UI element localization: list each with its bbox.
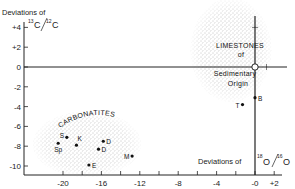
y-isotope-bottom: 12 <box>46 18 52 24</box>
limestones-label-line: Origin <box>228 80 248 88</box>
y-tick-label: -6 <box>14 122 22 131</box>
data-point <box>253 96 256 99</box>
x-tick-label: -20 <box>57 179 69 188</box>
reference-open-circle <box>252 64 258 70</box>
data-point-label: T <box>236 102 240 109</box>
data-point-label: D <box>102 146 107 153</box>
isotope-scatter-chart: LIMESTONESofSedimentaryOriginCARBONATITE… <box>0 0 295 189</box>
limestones-label-line: of <box>238 51 244 58</box>
carbonatites-region-edge <box>33 112 141 177</box>
y-axis-title-prefix: Deviations of <box>2 8 46 17</box>
data-point-label: Sp <box>54 146 62 154</box>
data-point <box>65 136 68 139</box>
data-point <box>131 155 134 158</box>
x-tick-label: -0 <box>251 179 259 188</box>
x-tick-label: -12 <box>134 179 146 188</box>
x-isotope-top: 18 <box>257 153 263 159</box>
y-axis-title-ratio: 13 C 12 C <box>28 18 59 31</box>
data-point-label: M <box>124 153 129 160</box>
y-tick-label: -8 <box>14 142 22 151</box>
x-element-bottom: O <box>283 157 290 167</box>
data-point-label: K <box>77 135 82 142</box>
data-point-label: S <box>60 132 65 139</box>
data-point-label: D <box>106 138 111 145</box>
reference-layer <box>252 64 258 70</box>
data-point-label: B <box>258 95 262 102</box>
x-axis-title-ratio: 18 O 16 O <box>257 153 290 167</box>
x-axis-title-prefix: Deviations of <box>198 157 242 166</box>
x-tick-label: -4 <box>213 179 221 188</box>
y-tick-label: -2 <box>14 83 22 92</box>
y-tick-label: -10 <box>9 162 21 171</box>
regions-layer: LIMESTONESofSedimentaryOriginCARBONATITE… <box>33 0 271 177</box>
x-tick-label: +2 <box>270 179 280 188</box>
data-point <box>87 163 90 166</box>
y-element-top: C <box>34 20 41 30</box>
x-isotope-bottom: 16 <box>277 153 283 159</box>
y-element-bottom: C <box>52 20 59 30</box>
limestones-label-line: Sedimentary <box>214 70 257 78</box>
data-point <box>241 103 244 106</box>
y-tick-label: -4 <box>14 103 22 112</box>
y-tick-label: +2 <box>12 43 22 52</box>
data-point <box>102 140 105 143</box>
y-tick-label: 0 <box>17 63 22 72</box>
x-tick-label: -16 <box>96 179 108 188</box>
y-tick-label: +4 <box>12 23 22 32</box>
data-point <box>57 142 60 145</box>
data-point <box>75 144 78 147</box>
data-point <box>97 148 100 151</box>
data-point-label: E <box>92 162 97 169</box>
limestones-label-line: LIMESTONES <box>216 42 264 49</box>
x-tick-label: -8 <box>175 179 183 188</box>
y-isotope-top: 13 <box>28 18 34 24</box>
x-element-top: O <box>263 157 270 167</box>
